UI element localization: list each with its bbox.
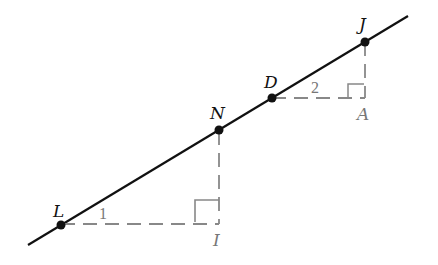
label-J: J [356,14,367,34]
angle-label-1: 1 [99,205,107,222]
point-J [361,38,370,47]
angle-label-2: 2 [311,79,319,96]
right-angle-marker-A [348,84,364,97]
diagram-svg: L N D J I A 1 2 [0,0,438,265]
label-N: N [209,103,226,123]
label-D: D [263,72,278,92]
label-A: A [355,104,369,124]
point-N [215,126,224,135]
point-D [268,94,277,103]
right-angle-marker-I [195,200,219,222]
label-L: L [52,201,64,221]
point-L [57,221,66,230]
label-I: I [212,230,220,250]
geometry-diagram: L N D J I A 1 2 [0,0,438,265]
